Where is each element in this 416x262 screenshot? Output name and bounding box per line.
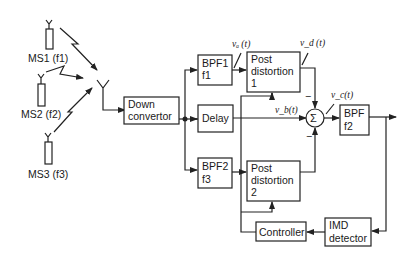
down-convertor-label-2: convertor: [128, 110, 172, 122]
down-convertor-label-1: Down: [128, 98, 155, 110]
ms1-station: MS1 (f1): [28, 20, 68, 64]
bpf-f2-label-1: BPF: [344, 107, 364, 119]
va-pointer: [234, 53, 241, 68]
ms3-label: MS3 (f3): [28, 168, 68, 180]
block-diagram: MS1 (f1) MS2 (f2) MS3 (f3) Down converto…: [0, 0, 416, 262]
vc-signal-label: v_c(t): [331, 90, 353, 101]
vd-pointer: [302, 53, 308, 65]
bpf-f2-label-2: f2: [344, 120, 353, 132]
va-signal-label: vₐ (t): [232, 39, 250, 50]
vd-signal-label: v_d (t): [300, 38, 325, 49]
bpf1-label-2: f1: [202, 69, 211, 81]
imd-label-2: detector: [329, 232, 367, 244]
wire-to-bpf2: [185, 119, 197, 170]
ms3-handset: [45, 142, 52, 164]
feedback-to-pd2: [241, 202, 272, 212]
ms1-label: MS1 (f1): [28, 52, 68, 64]
wire-pd1-sum: [300, 68, 315, 108]
vb-signal-label: v_b(t): [275, 105, 298, 116]
pd1-label-1: Post: [251, 53, 272, 65]
receive-antenna-icon: [97, 80, 125, 110]
pd2-label-2: distortion: [251, 174, 294, 186]
sigma-symbol: Σ: [310, 112, 317, 124]
imd-label-1: IMD: [329, 219, 349, 231]
antenna-icon: [38, 74, 44, 84]
bpf1-label-1: BPF1: [202, 57, 228, 69]
pd1-label-3: 1: [251, 77, 257, 89]
pd2-label-3: 2: [251, 186, 257, 198]
pd1-label-2: distortion: [251, 65, 294, 77]
antenna-icon: [45, 133, 51, 142]
bpf2-label-2: f3: [202, 173, 211, 185]
wire-to-imd: [372, 117, 386, 231]
ms2-handset: [38, 84, 45, 106]
ms1-handset: [46, 29, 53, 49]
minus-sign-bottom: −: [306, 130, 312, 142]
pd2-label-1: Post: [251, 162, 272, 174]
antenna-icon: [46, 20, 52, 29]
minus-sign-top: −: [305, 90, 311, 102]
controller-label: Controller: [259, 226, 305, 238]
vc-pointer: [326, 104, 334, 114]
delay-label: Delay: [202, 112, 230, 124]
bpf2-label-1: BPF2: [202, 160, 228, 172]
ms2-radio-link: [46, 66, 83, 78]
ms2-label: MS2 (f2): [21, 108, 61, 120]
ms2-station: MS2 (f2): [21, 74, 61, 120]
wire-to-bpf1: [185, 70, 197, 119]
ms3-station: MS3 (f3): [28, 133, 68, 180]
